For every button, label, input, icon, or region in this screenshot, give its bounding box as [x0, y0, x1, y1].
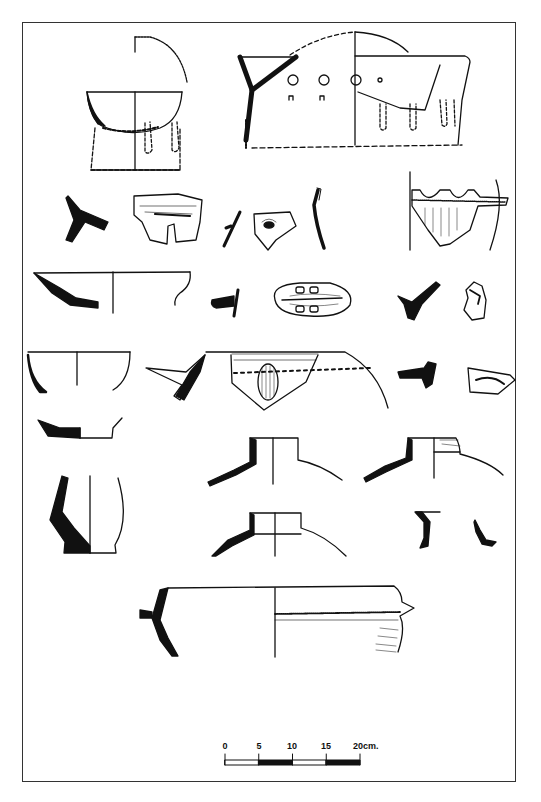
figure-rim-fragments [415, 512, 496, 548]
figure-small-section-3 [398, 362, 436, 388]
figure-lug-sherd [254, 212, 296, 250]
figure-shallow-dish [34, 272, 190, 313]
figure-base-fragment [38, 418, 122, 438]
figure-jar-neck-3 [212, 513, 346, 556]
figure-flanged-section-2 [146, 355, 205, 400]
figure-large-flanged-bowl [140, 586, 414, 657]
figure-carinated-section [398, 282, 440, 320]
figure-curved-wall-section [314, 188, 324, 248]
figure-small-rim-section [224, 212, 240, 246]
pottery-drawings [0, 0, 541, 802]
figure-large-bowl-lug [206, 352, 388, 410]
figure-decorated-sherd-1 [134, 194, 202, 244]
figure-section-y-1 [66, 196, 108, 242]
figure-bowl-on-feet [87, 37, 187, 170]
figure-double-lug-sherd [274, 283, 351, 316]
pottery-plate: 0 5 10 15 20cm. [0, 0, 541, 802]
figure-jar-neck-2 [364, 438, 503, 482]
figure-jar-neck-1 [208, 438, 342, 486]
figure-small-flange-section [212, 290, 239, 316]
figure-deep-bowl [28, 352, 130, 392]
scale-bar [225, 754, 360, 765]
scale-label-15: 15 [321, 741, 331, 751]
scale-label-5: 5 [256, 741, 261, 751]
figure-handle-fragment [464, 282, 486, 320]
scale-label-0: 0 [222, 741, 227, 751]
figure-perforated-vessel [240, 32, 470, 148]
scale-label-20cm: 20cm. [353, 741, 379, 751]
figure-scalloped-rim-vessel [410, 172, 508, 250]
figure-carinated-jar [50, 476, 123, 553]
scale-label-10: 10 [287, 741, 297, 751]
figure-decorated-sherd-2 [468, 368, 515, 394]
